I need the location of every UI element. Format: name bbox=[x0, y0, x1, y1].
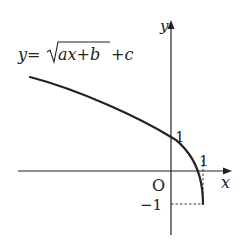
equation-suffix: +c bbox=[111, 45, 133, 64]
equation-label: y= bbox=[17, 45, 40, 64]
y-axis-arrow-icon bbox=[168, 20, 175, 29]
graph-canvas: y x O 1 1 −1 y= ax+b +c bbox=[0, 0, 243, 244]
y-axis-label: y bbox=[159, 17, 169, 35]
x-tick-label: 1 bbox=[199, 152, 209, 170]
x-axis-label: x bbox=[221, 173, 230, 192]
equation-prefix: y= bbox=[17, 45, 40, 64]
equation-radicand: ax+b bbox=[58, 45, 100, 64]
y-negative-tick-label: −1 bbox=[140, 196, 162, 214]
origin-label: O bbox=[152, 176, 165, 195]
y-intercept-label: 1 bbox=[175, 128, 185, 146]
function-graph-figure: y x O 1 1 −1 y= ax+b +c bbox=[0, 0, 243, 244]
